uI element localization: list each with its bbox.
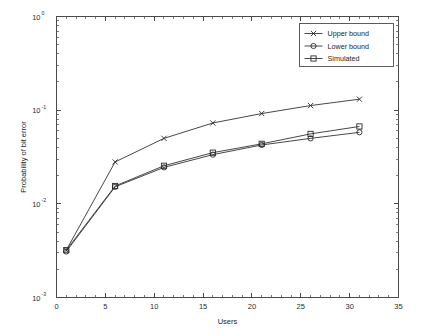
- series-line-upper-bound: [66, 99, 359, 250]
- x-tick-label: 20: [248, 302, 256, 311]
- y-axis-title: Probability of bit error: [19, 121, 28, 193]
- line-chart: 0510152025303510010-110-210-3 UsersProba…: [0, 0, 421, 334]
- legend-label: Lower bound: [328, 42, 370, 51]
- y-tick-label: 10: [32, 294, 40, 303]
- x-tick-label: 30: [345, 302, 353, 311]
- x-tick-label: 10: [150, 302, 158, 311]
- legend-label: Simulated: [328, 54, 360, 63]
- y-tick-label-exponent: -2: [42, 197, 47, 203]
- y-tick-label: 10: [32, 13, 40, 22]
- series-line-simulated: [66, 126, 359, 250]
- y-tick-label-exponent: -3: [42, 291, 47, 297]
- y-tick-label-exponent: -1: [42, 104, 47, 110]
- figure-container: 0510152025303510010-110-210-3 UsersProba…: [0, 0, 421, 334]
- x-tick-label: 0: [54, 302, 58, 311]
- y-tick-label-exponent: 0: [42, 10, 45, 16]
- x-tick-label: 5: [103, 302, 107, 311]
- chart-legend: Upper boundLower boundSimulated: [299, 23, 393, 66]
- data-series: [64, 97, 362, 254]
- y-tick-label: 10: [32, 106, 40, 115]
- x-axis-title: Users: [218, 317, 238, 326]
- legend-label: Upper bound: [328, 29, 370, 38]
- x-tick-label: 35: [394, 302, 402, 311]
- x-tick-label: 15: [199, 302, 207, 311]
- x-tick-label: 25: [297, 302, 305, 311]
- axis-titles: UsersProbability of bit error: [19, 121, 238, 326]
- y-tick-label: 10: [32, 200, 40, 209]
